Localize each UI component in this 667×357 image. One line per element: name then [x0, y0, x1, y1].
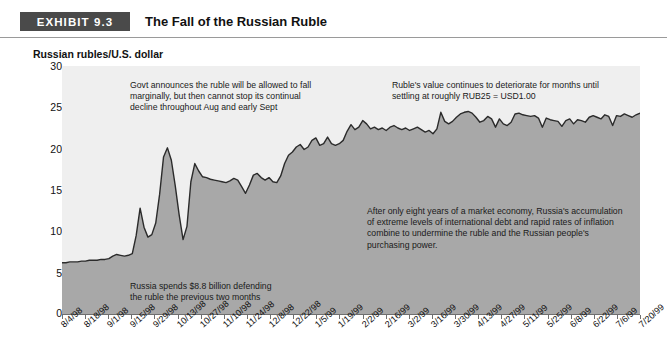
y-axis-tick-25: 25: [16, 101, 62, 113]
annotation-market-economy: After only eight years of a market econo…: [367, 206, 622, 251]
annotation-deterioration: Ruble's value continues to deteriorate f…: [392, 80, 599, 102]
annotation-govt-announcement: Govt announces the ruble will be allowed…: [130, 80, 311, 114]
exhibit-title: The Fall of the Russian Ruble: [145, 12, 327, 31]
y-axis-tick-5: 5: [16, 267, 62, 279]
exhibit-number-badge: EXHIBIT 9.3: [20, 12, 130, 31]
exhibit-header: EXHIBIT 9.3 The Fall of the Russian Rubl…: [0, 0, 667, 40]
plot-area-wrapper: 51015202530 Govt announces the ruble wil…: [0, 62, 667, 320]
y-axis-tick-20: 20: [16, 143, 62, 155]
x-axis: 8/4/988/18/989/1/989/15/989/29/9810/13/9…: [0, 314, 667, 357]
y-axis-tick-15: 15: [16, 184, 62, 196]
y-axis-tick-10: 10: [16, 225, 62, 237]
header-divider: [0, 37, 667, 38]
chart-plot-area: Govt announces the ruble will be allowed…: [62, 66, 640, 314]
y-axis-tick-30: 30: [16, 60, 62, 72]
exhibit-figure: EXHIBIT 9.3 The Fall of the Russian Rubl…: [0, 0, 667, 357]
y-axis-title: Russian rubles/U.S. dollar: [33, 48, 163, 60]
